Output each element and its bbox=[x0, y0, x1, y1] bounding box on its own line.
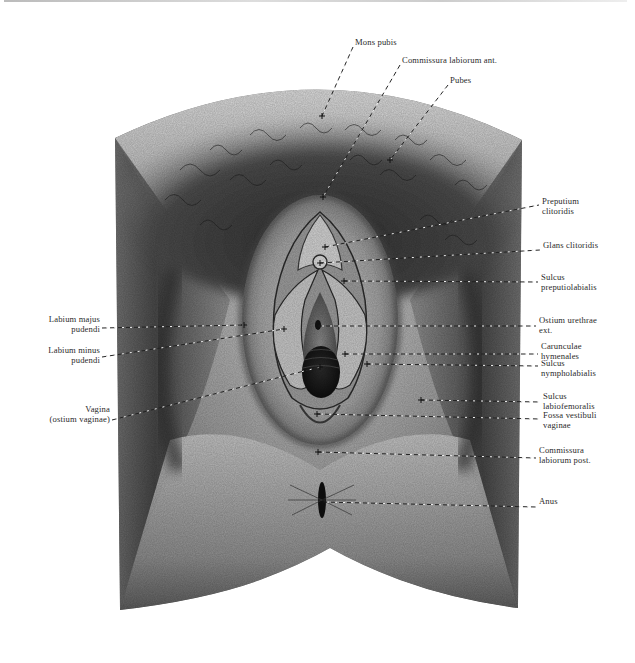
label-preputium-clitoridis: Preputiumclitoridis bbox=[542, 197, 579, 216]
label-commissura-labiorum-post: Commissuralabiorum post. bbox=[539, 446, 591, 465]
label-line: Commissura labiorum ant. bbox=[402, 56, 497, 66]
label-glans-clitoridis: Glans clitoridis bbox=[543, 241, 598, 251]
label-labium-minus-pudendi: Labium minuspudendi bbox=[48, 346, 100, 365]
label-fossa-vestibuli-vaginae: Fossa vestibulivaginae bbox=[543, 411, 597, 430]
label-sulcus-preputiolabialis: Sulcuspreputiolabialis bbox=[541, 273, 597, 292]
label-line: (ostium vaginae) bbox=[50, 415, 110, 425]
label-commissura-labiorum-ant: Commissura labiorum ant. bbox=[402, 56, 497, 66]
label-vagina-ostium-vaginae: Vagina(ostium vaginae) bbox=[50, 405, 110, 424]
label-line: vaginae bbox=[543, 421, 597, 431]
label-line: preputiolabialis bbox=[541, 283, 597, 293]
label-line: pudendi bbox=[48, 356, 100, 366]
label-anus: Anus bbox=[539, 497, 558, 507]
body-silhouette bbox=[100, 40, 540, 620]
label-labium-majus-pudendi: Labium majuspudendi bbox=[49, 315, 100, 334]
label-line: clitoridis bbox=[542, 207, 579, 217]
label-line: Mons pubis bbox=[355, 38, 397, 48]
label-sulcus-nympholabialis: Sulcusnympholabialis bbox=[541, 359, 596, 378]
label-line: nympholabialis bbox=[541, 369, 596, 379]
label-line: Anus bbox=[539, 497, 558, 507]
label-mons-pubis: Mons pubis bbox=[355, 38, 397, 48]
label-line: Pubes bbox=[450, 76, 471, 86]
label-line: ext. bbox=[539, 326, 597, 336]
label-line: pudendi bbox=[49, 325, 100, 335]
label-ostium-urethrae-ext: Ostium urethraeext. bbox=[539, 316, 597, 335]
label-sulcus-labiofemoralis: Sulcuslabiofemoralis bbox=[543, 392, 595, 411]
label-line: labiorum post. bbox=[539, 456, 591, 466]
label-line: Glans clitoridis bbox=[543, 241, 598, 251]
label-pubes: Pubes bbox=[450, 76, 471, 86]
